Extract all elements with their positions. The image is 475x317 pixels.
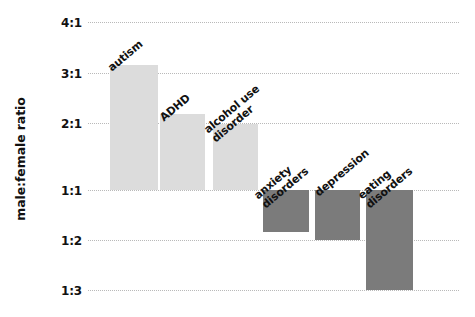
y-axis-title: male:female ratio [0, 0, 40, 317]
bar-adhd[interactable] [160, 114, 205, 190]
y-tick-label-3-1: 3:1 [61, 67, 82, 81]
y-tick-label-1-2: 1:2 [61, 234, 82, 248]
plot-area: 4:1 3:1 2:1 1:1 1:2 1:3 autism ADHD [88, 0, 475, 317]
bar-autism[interactable] [110, 65, 158, 190]
y-tick-label-2-1: 2:1 [61, 117, 82, 131]
gridline-4-1: 4:1 [88, 22, 459, 23]
y-tick-label-4-1: 4:1 [61, 16, 82, 30]
y-tick-label-1-1: 1:1 [61, 184, 82, 198]
gridline-1-3: 1:3 [88, 290, 459, 291]
y-tick-label-1-3: 1:3 [61, 284, 82, 298]
bar-chart: male:female ratio 4:1 3:1 2:1 1:1 1:2 1:… [0, 0, 475, 317]
y-axis-title-label: male:female ratio [13, 97, 28, 220]
